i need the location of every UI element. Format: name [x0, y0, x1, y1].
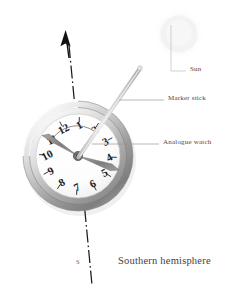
figure-canvas: 12 1 2 3 4 5 6 7 8 9 10 11	[0, 0, 242, 299]
south-marker-label: S	[76, 258, 80, 265]
sun-icon	[153, 8, 205, 60]
callout-label-sun: Sun	[190, 65, 202, 73]
callout-label-analogue-watch: Analogue watch	[163, 138, 211, 146]
figure-caption: Southern hemisphere	[118, 255, 211, 266]
callout-label-marker-stick: Marker stick	[168, 94, 206, 102]
direction-arrow-icon	[60, 30, 70, 58]
